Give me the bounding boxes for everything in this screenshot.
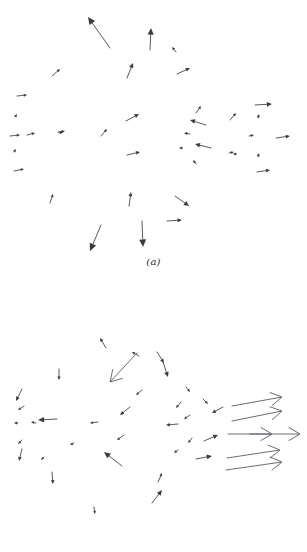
vector-arrow	[163, 362, 169, 377]
vector-arrow-shaft	[102, 341, 106, 348]
vector-arrow-shaft	[186, 415, 190, 417]
vector-arrow-shaft	[94, 507, 95, 511]
vector-arrow-shaft	[14, 170, 21, 171]
vector-arrow	[17, 94, 27, 97]
vector-arrow-shaft	[216, 407, 223, 411]
vector-arrow-shaft	[196, 109, 199, 113]
vector-arrow	[52, 69, 60, 76]
vector-arrow-shaft	[152, 494, 159, 503]
vector-arrow	[18, 406, 24, 410]
vector-arrow	[174, 450, 178, 453]
vector-arrow-head	[179, 147, 182, 150]
vector-field-figure: (a) (b)	[0, 0, 307, 552]
vector-arrow-shaft	[50, 197, 52, 203]
vector-arrow	[18, 440, 22, 444]
vector-arrow	[101, 129, 107, 136]
vector-arrow	[193, 160, 196, 164]
vector-arrow-shaft	[174, 49, 176, 52]
vector-arrow	[41, 457, 44, 460]
vector-arrow	[257, 114, 260, 118]
vector-arrow-shaft	[203, 399, 206, 402]
vector-arrow	[93, 507, 96, 514]
vector-arrow	[188, 438, 192, 443]
vector-arrow-shaft	[93, 225, 101, 244]
vector-arrow-head	[257, 114, 260, 117]
vector-arrow-shaft	[138, 390, 142, 393]
vector-arrow	[120, 407, 130, 415]
vector-arrow	[232, 393, 282, 406]
vector-arrow	[255, 102, 272, 107]
vector-arrow-head	[17, 134, 20, 137]
vector-arrow	[128, 192, 132, 206]
vector-arrow	[257, 169, 270, 173]
vector-arrow	[184, 132, 190, 135]
vector-arrow-shaft	[276, 137, 286, 138]
vector-arrow-shaft	[200, 145, 211, 148]
vector-arrow	[104, 452, 122, 466]
vector-arrow-shaft	[195, 122, 206, 126]
vector-arrow-shaft	[163, 362, 166, 372]
vector-arrow	[276, 135, 290, 139]
vector-arrow-head	[183, 201, 189, 206]
vector-arrow	[204, 435, 218, 441]
vector-arrow	[126, 114, 139, 121]
vector-arrow	[117, 435, 124, 440]
vector-arrow	[175, 196, 189, 206]
vector-arrow-head	[251, 134, 254, 137]
vector-arrow-shaft	[176, 450, 178, 451]
vector-arrow	[127, 63, 133, 78]
vector-arrow	[10, 134, 20, 137]
vector-arrow	[172, 47, 176, 52]
vector-arrow-shaft	[52, 472, 53, 480]
vector-arrow	[148, 28, 154, 50]
vector-arrow-shaft	[158, 476, 161, 482]
vector-arrow	[232, 407, 282, 421]
vector-arrow-shaft	[43, 457, 44, 458]
vector-arrow	[90, 225, 101, 251]
vector-arrow-head	[231, 151, 234, 154]
vector-arrow	[152, 490, 162, 503]
vector-arrow-shaft	[111, 353, 137, 381]
vector-arrow-shaft	[109, 456, 122, 466]
vector-arrow-head	[157, 490, 162, 496]
vector-arrow	[50, 194, 53, 203]
vector-arrow-shaft	[196, 457, 207, 459]
vector-arrow	[14, 114, 17, 117]
vector-arrow	[212, 407, 223, 413]
vector-arrow-shaft	[226, 462, 281, 470]
vector-arrow-shaft	[177, 70, 186, 74]
vector-arrow-shaft	[17, 95, 24, 96]
vector-arrow	[196, 106, 201, 113]
panel-b-vector-plot	[0, 280, 307, 518]
vector-arrow-shaft	[175, 196, 185, 203]
vector-arrow	[177, 68, 190, 74]
vector-arrow-head	[51, 480, 55, 484]
vector-arrow	[70, 442, 74, 445]
panel-b: (b)	[0, 280, 307, 552]
vector-arrow-head	[136, 151, 140, 155]
vector-arrow	[203, 399, 208, 404]
vector-arrow-head	[139, 239, 146, 247]
vector-arrow	[158, 473, 162, 482]
vector-arrow-shaft	[18, 389, 22, 397]
vector-arrow	[195, 143, 211, 148]
vector-arrow	[51, 472, 55, 484]
vector-arrow-shaft	[44, 419, 57, 420]
vector-arrow	[88, 17, 110, 48]
vector-arrow-shaft	[10, 135, 17, 136]
vector-arrow-shaft	[178, 402, 181, 406]
vector-arrow-shaft	[157, 352, 162, 359]
vector-arrow-shaft	[195, 163, 196, 164]
vector-arrow	[184, 415, 190, 419]
vector-arrow	[100, 338, 106, 348]
vector-arrow-head	[88, 17, 95, 25]
vector-arrow	[249, 134, 254, 137]
vector-arrow-head	[21, 168, 24, 171]
vector-arrow	[38, 417, 57, 423]
vector-arrow-shaft	[27, 134, 32, 135]
vector-arrow-shaft	[119, 435, 124, 438]
vector-arrow	[233, 153, 236, 156]
vector-arrow-head	[257, 153, 260, 156]
vector-arrow	[14, 168, 24, 171]
vector-arrow-head	[93, 511, 96, 514]
